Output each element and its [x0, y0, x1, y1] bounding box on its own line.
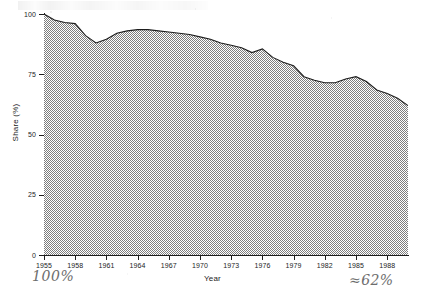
x-tick-label: 1967 — [161, 262, 177, 270]
x-tick — [75, 255, 76, 260]
handwritten-note-right: ≈62% — [349, 272, 393, 288]
y-tick — [39, 135, 44, 136]
x-tick-label: 1961 — [98, 262, 114, 270]
x-tick-label: 1985 — [348, 262, 364, 270]
x-tick-label: 1976 — [254, 262, 270, 270]
handwritten-note-left: 100% — [32, 268, 74, 284]
x-tick — [106, 255, 107, 260]
y-tick-label: 0 — [32, 252, 36, 259]
scan-smudge-artifact — [18, 1, 208, 10]
x-tick — [262, 255, 263, 260]
x-tick-label: 1982 — [317, 262, 333, 270]
chart-figure: 0255075100 19551958196119641967197019731… — [0, 0, 425, 298]
y-tick — [39, 195, 44, 196]
y-tick-label: 50 — [28, 131, 36, 138]
x-tick — [169, 255, 170, 260]
x-tick — [138, 255, 139, 260]
x-tick — [44, 255, 45, 260]
x-tick-label: 1970 — [192, 262, 208, 270]
y-tick-label: 75 — [28, 71, 36, 78]
plot-area — [44, 14, 408, 255]
x-tick — [387, 255, 388, 260]
x-tick-label: 1988 — [379, 262, 395, 270]
x-tick — [356, 255, 357, 260]
y-tick — [39, 74, 44, 75]
y-axis-title: Share (%) — [11, 88, 20, 158]
x-axis-line — [44, 255, 409, 256]
x-tick-label: 1979 — [286, 262, 302, 270]
x-tick — [231, 255, 232, 260]
x-tick-label: 1964 — [130, 262, 146, 270]
y-tick-label: 100 — [24, 11, 36, 18]
y-tick-label: 25 — [28, 191, 36, 198]
x-tick-label: 1973 — [223, 262, 239, 270]
x-tick — [325, 255, 326, 260]
area-series — [44, 14, 408, 255]
y-tick — [39, 14, 44, 15]
x-tick — [294, 255, 295, 260]
x-tick — [200, 255, 201, 260]
